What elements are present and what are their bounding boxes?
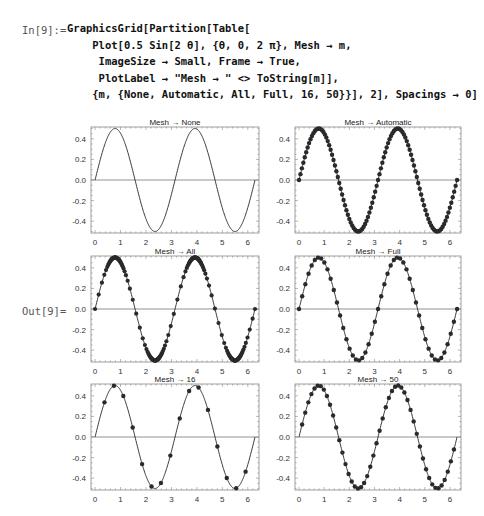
mesh-point — [340, 192, 344, 196]
mesh-point — [337, 438, 341, 442]
mesh-point — [344, 208, 348, 212]
y-tick-label: -0.2 — [72, 197, 86, 206]
mesh-point — [222, 341, 226, 345]
mesh-point — [445, 215, 449, 219]
mesh-point — [442, 350, 446, 354]
mesh-point — [401, 260, 405, 264]
mesh-point — [439, 483, 443, 487]
mesh-point — [406, 143, 410, 147]
mesh-point — [298, 172, 302, 176]
y-tick-label: 0.2 — [75, 155, 87, 164]
mesh-point — [326, 139, 330, 143]
mesh-point — [334, 425, 338, 429]
mesh-point — [380, 416, 384, 420]
mesh-point — [304, 150, 308, 154]
mesh-point — [203, 272, 207, 276]
mesh-point — [163, 344, 167, 348]
plot-panel: Mesh → 1601234560.40.20.0-0.2-0.4 — [72, 375, 259, 505]
mesh-point — [452, 320, 456, 324]
mesh-point — [220, 333, 224, 337]
mesh-point — [445, 342, 449, 346]
mesh-point — [164, 339, 168, 343]
mesh-point — [449, 332, 453, 336]
mesh-point — [343, 462, 347, 466]
mesh-point — [420, 326, 424, 330]
y-tick-label: -0.4 — [72, 346, 86, 355]
y-tick-label: 0.4 — [279, 392, 291, 401]
mesh-point — [418, 187, 422, 191]
mesh-point — [377, 172, 381, 176]
mesh-point — [382, 282, 386, 286]
mesh-point — [215, 444, 219, 448]
mesh-point — [319, 384, 323, 388]
x-tick-label: 0 — [297, 495, 302, 504]
mesh-point — [374, 184, 378, 188]
mesh-point — [159, 481, 163, 485]
y-tick-label: 0.0 — [279, 176, 291, 185]
mesh-point — [307, 141, 311, 145]
mesh-point — [328, 403, 332, 407]
mesh-point — [338, 187, 342, 191]
mesh-point — [328, 277, 332, 281]
mesh-point — [365, 474, 369, 478]
plot-title: Mesh → 16 — [155, 375, 196, 384]
mesh-point — [382, 155, 386, 159]
y-tick-label: -0.4 — [72, 217, 86, 226]
mesh-point — [330, 153, 334, 157]
graphics-grid: Mesh → None01234560.40.20.0-0.2-0.4Mesh … — [0, 0, 484, 516]
plot-title: Mesh → Automatic — [344, 118, 411, 127]
mesh-point — [359, 485, 363, 489]
mesh-point — [377, 428, 381, 432]
mesh-point — [169, 324, 173, 328]
mesh-point — [386, 141, 390, 145]
mesh-point — [383, 150, 387, 154]
mesh-point — [300, 422, 304, 426]
mesh-point — [366, 215, 370, 219]
mesh-point — [451, 195, 455, 199]
mesh-point — [453, 184, 457, 188]
mesh-point — [334, 169, 338, 173]
y-tick-label: -0.4 — [276, 217, 290, 226]
mesh-point — [100, 281, 104, 285]
mesh-point — [455, 307, 459, 311]
mesh-point — [427, 476, 431, 480]
mesh-point — [419, 192, 423, 196]
mesh-point — [443, 219, 447, 223]
mesh-point — [331, 413, 335, 417]
mesh-point — [93, 307, 97, 311]
mesh-point — [179, 284, 183, 288]
mesh-point — [234, 486, 238, 490]
mesh-point — [390, 389, 394, 393]
x-tick-label: 1 — [118, 238, 123, 247]
x-tick-label: 2 — [347, 238, 352, 247]
mesh-point — [452, 189, 456, 193]
mesh-point — [143, 343, 147, 347]
mesh-point — [178, 416, 182, 420]
x-tick-label: 4 — [195, 495, 200, 504]
mesh-point — [305, 145, 309, 149]
mesh-point — [331, 158, 335, 162]
y-tick-label: 0.4 — [279, 135, 291, 144]
mesh-point — [128, 287, 132, 291]
y-tick-label: 0.4 — [75, 135, 87, 144]
mesh-point — [410, 158, 414, 162]
mesh-point — [405, 398, 409, 402]
mesh-point — [411, 419, 415, 423]
mesh-point — [297, 178, 301, 182]
x-tick-label: 0 — [93, 367, 98, 376]
x-tick-label: 5 — [220, 367, 225, 376]
mesh-point — [134, 312, 138, 316]
x-tick-label: 1 — [322, 367, 327, 376]
mesh-point — [149, 484, 153, 488]
plot-title: Mesh → 50 — [358, 375, 399, 384]
mesh-point — [102, 400, 106, 404]
y-tick-label: 0.2 — [279, 412, 291, 421]
x-tick-label: 2 — [347, 495, 352, 504]
mesh-point — [303, 155, 307, 159]
mesh-point — [333, 163, 337, 167]
mesh-point — [363, 350, 367, 354]
x-tick-label: 1 — [118, 495, 123, 504]
mesh-point — [366, 342, 370, 346]
x-tick-label: 4 — [195, 238, 200, 247]
y-tick-label: 0.2 — [75, 412, 87, 421]
